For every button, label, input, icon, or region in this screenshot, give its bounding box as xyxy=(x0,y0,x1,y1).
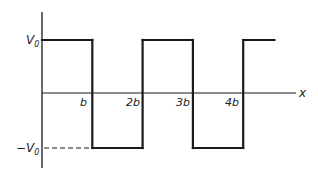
neg-v0-label: −V0 xyxy=(16,141,39,157)
tick-label-2b: 2b xyxy=(126,96,140,109)
tick-label-b: b xyxy=(80,96,87,109)
v0-label: V0 xyxy=(26,33,39,49)
tick-label-4b: 4b xyxy=(225,96,239,109)
x-axis-label: x xyxy=(298,86,307,100)
tick-label-3b: 3b xyxy=(176,96,190,109)
square-wave-diagram: x V0 −V0 b 2b 3b 4b xyxy=(0,0,318,178)
waveform xyxy=(42,40,274,148)
